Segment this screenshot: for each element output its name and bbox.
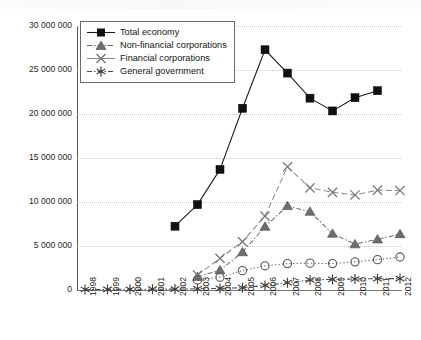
series-financial-corporations [193, 162, 405, 279]
legend-label-general-government: General government [116, 65, 204, 78]
legend-item-general-government[interactable]: General government [86, 65, 227, 78]
chart-legend: Total economy Non-financial corporations… [80, 21, 235, 83]
series-unlabeled-circle [193, 253, 404, 284]
legend-swatch-financial-corporations [86, 52, 116, 65]
legend-item-non-financial-corporations[interactable]: Non-financial corporations [86, 39, 227, 52]
legend-swatch-general-government [86, 65, 116, 78]
series-general-government [81, 274, 405, 295]
series-non-financial-corporations [193, 201, 406, 280]
legend-item-total-economy[interactable]: Total economy [86, 26, 227, 39]
legend-swatch-total-economy [86, 26, 116, 39]
legend-label-non-financial-corporations: Non-financial corporations [116, 39, 227, 52]
chart-container: 05 000 00010 000 00015 000 00020 000 000… [0, 0, 421, 340]
legend-label-financial-corporations: Financial corporations [116, 52, 210, 65]
legend-label-total-economy: Total economy [116, 26, 179, 39]
legend-item-financial-corporations[interactable]: Financial corporations [86, 52, 227, 65]
legend-swatch-non-financial-corporations [86, 39, 116, 52]
